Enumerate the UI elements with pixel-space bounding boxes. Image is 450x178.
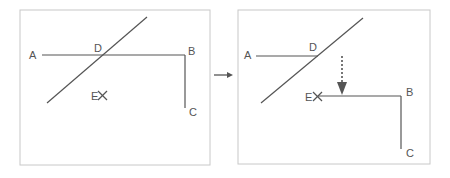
label-e: E — [91, 90, 98, 102]
label-d: D — [94, 42, 102, 54]
right-panel: A D B C E — [238, 10, 430, 164]
label-a: A — [244, 49, 252, 61]
label-b: B — [188, 45, 195, 57]
label-c: C — [189, 106, 197, 118]
left-panel: A D B C E — [20, 10, 210, 165]
label-d: D — [309, 41, 317, 53]
label-a: A — [29, 49, 37, 61]
label-e: E — [305, 91, 312, 103]
diagram-canvas: A D B C E A D B C E — [0, 0, 450, 178]
label-c: C — [406, 147, 414, 159]
label-b: B — [406, 86, 413, 98]
transition-arrow-icon — [214, 72, 233, 78]
